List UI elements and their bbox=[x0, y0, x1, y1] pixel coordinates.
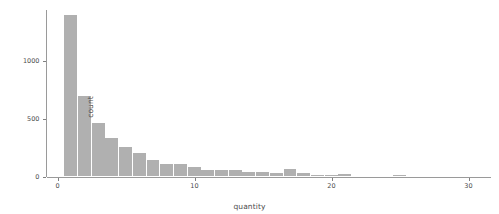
y-tick-mark bbox=[43, 177, 46, 178]
y-axis-line bbox=[46, 10, 47, 177]
histogram-bar bbox=[284, 169, 297, 176]
histogram-bar bbox=[160, 164, 173, 177]
x-tick-label: 10 bbox=[190, 182, 198, 190]
histogram-plot: 0102030 05001000 quantity count bbox=[0, 0, 499, 214]
y-tick-label: 500 bbox=[10, 115, 40, 123]
histogram-bar bbox=[105, 138, 118, 176]
x-tick-mark bbox=[195, 178, 196, 181]
x-tick-mark bbox=[58, 178, 59, 181]
histogram-bar bbox=[119, 147, 132, 177]
histogram-bar bbox=[188, 167, 201, 177]
x-tick-mark bbox=[332, 178, 333, 181]
y-tick-mark bbox=[43, 61, 46, 62]
y-tick-label: 0 bbox=[10, 173, 40, 181]
histogram-bar bbox=[201, 170, 214, 177]
x-tick-label: 20 bbox=[327, 182, 335, 190]
y-tick-label: 1000 bbox=[10, 57, 40, 65]
y-axis-title: count bbox=[84, 0, 98, 214]
x-axis-line bbox=[47, 177, 491, 178]
x-tick-label: 30 bbox=[464, 182, 472, 190]
histogram-bar bbox=[229, 170, 242, 177]
histogram-bar bbox=[133, 153, 146, 176]
histogram-bar bbox=[147, 160, 160, 177]
x-tick-mark bbox=[469, 178, 470, 181]
histogram-bar bbox=[64, 15, 77, 177]
x-tick-label: 0 bbox=[55, 182, 59, 190]
histogram-bar bbox=[215, 170, 228, 177]
histogram-bar bbox=[174, 164, 187, 177]
plot-panel bbox=[49, 9, 489, 176]
y-tick-mark bbox=[43, 119, 46, 120]
x-axis-title: quantity bbox=[0, 202, 499, 211]
